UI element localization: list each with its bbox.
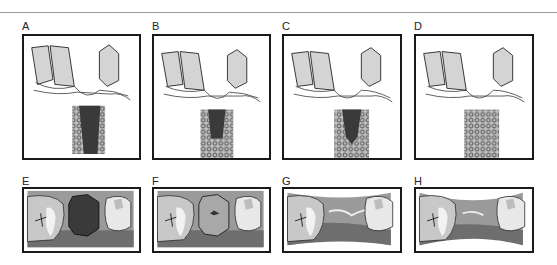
panel-label-e: E (22, 176, 29, 187)
top-divider-line (0, 12, 557, 13)
panel-label-d: D (414, 21, 422, 32)
panel-b-socket-healing (152, 34, 271, 160)
panel-label-g: G (282, 176, 291, 187)
panel-label-c: C (282, 21, 290, 32)
panel-a-socket-empty (22, 34, 141, 160)
panel-e-occlusal-clot (22, 187, 141, 253)
panel-d-socket-filled (414, 34, 534, 160)
panel-c-socket-partial-fill (282, 34, 402, 160)
panel-label-b: B (152, 21, 159, 32)
panel-g-occlusal-ridge (282, 187, 402, 253)
panel-h-occlusal-narrowed (414, 187, 534, 253)
panel-label-a: A (22, 21, 29, 32)
panel-f-occlusal-covered (152, 187, 271, 253)
panel-label-f: F (152, 176, 159, 187)
panel-label-h: H (414, 176, 422, 187)
